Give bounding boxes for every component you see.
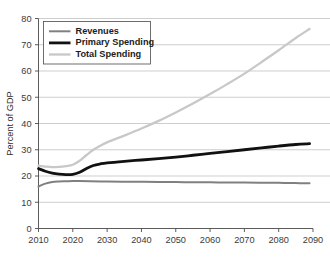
percent-of-gdp-line-chart: 01020304050607080 2010202020302040205020… xyxy=(0,0,330,257)
x-tick-label-2040: 2040 xyxy=(131,235,151,245)
legend-label-revenues: Revenues xyxy=(76,26,119,36)
x-axis-ticks-group: 201020202030204020502060207020802090 xyxy=(28,229,323,245)
x-tick-label-2030: 2030 xyxy=(97,235,117,245)
y-tick-label-10: 10 xyxy=(21,198,31,208)
y-tick-label-50: 50 xyxy=(21,93,31,103)
legend-label-primary-spending: Primary Spending xyxy=(76,37,155,47)
y-tick-label-30: 30 xyxy=(21,145,31,155)
x-tick-label-2050: 2050 xyxy=(166,235,186,245)
y-axis-title: Percent of GDP xyxy=(5,91,15,155)
y-tick-label-70: 70 xyxy=(21,40,31,50)
y-tick-label-0: 0 xyxy=(26,224,31,234)
x-tick-label-2060: 2060 xyxy=(200,235,220,245)
legend-label-total-spending: Total Spending xyxy=(76,49,142,59)
x-tick-label-2070: 2070 xyxy=(234,235,254,245)
y-axis-title-group: Percent of GDP xyxy=(5,91,15,155)
x-tick-label-2020: 2020 xyxy=(63,235,83,245)
x-tick-label-2090: 2090 xyxy=(303,235,323,245)
y-tick-label-40: 40 xyxy=(21,119,31,129)
x-tick-label-2010: 2010 xyxy=(28,235,48,245)
chart-container: 01020304050607080 2010202020302040205020… xyxy=(0,0,330,257)
chart-legend: RevenuesPrimary SpendingTotal Spending xyxy=(44,22,155,65)
y-tick-label-20: 20 xyxy=(21,171,31,181)
y-tick-label-60: 60 xyxy=(21,66,31,76)
x-tick-label-2080: 2080 xyxy=(268,235,288,245)
y-tick-label-80: 80 xyxy=(21,14,31,24)
